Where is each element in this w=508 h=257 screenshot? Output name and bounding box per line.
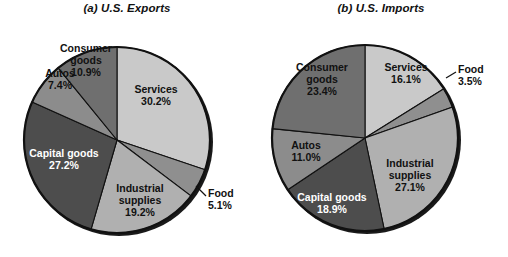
- figure-two-pie-charts: (a) U.S. Exports Services 30.2% Food 5.1…: [0, 0, 508, 257]
- pie-svg-exports: [0, 0, 254, 257]
- pie-chart-imports: Services 16.1% Food 3.5% Industrial supp…: [254, 0, 508, 257]
- pie-chart-exports: Services 30.2% Food 5.1% Industrial supp…: [0, 0, 254, 257]
- panel-us-exports: (a) U.S. Exports Services 30.2% Food 5.1…: [0, 0, 254, 257]
- pie-slice-consumer-goods: [272, 45, 365, 138]
- panel-us-imports: (b) U.S. Imports Services 16.1% Food 3.5…: [254, 0, 508, 257]
- leader-line-food-imports: [446, 72, 456, 78]
- pie-svg-imports: [254, 0, 508, 257]
